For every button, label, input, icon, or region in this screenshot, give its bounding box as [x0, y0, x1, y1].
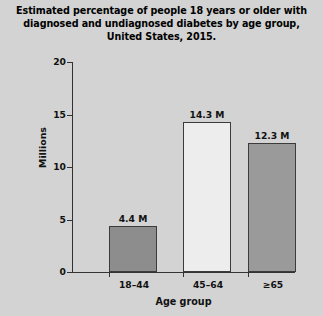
y-tick-15: 15	[0, 115, 66, 116]
x-tick-mark-3	[248, 272, 249, 277]
bar-value-45-64: 14.3 M	[173, 109, 241, 120]
y-tick-10: 10	[0, 167, 66, 168]
x-tick-label-45-64: 45–64	[173, 279, 243, 290]
x-tick-mark-1	[109, 272, 110, 277]
chart-figure: Estimated percentage of people 18 years …	[0, 0, 323, 316]
y-tick-label: 0	[20, 266, 66, 277]
y-tick-20: 20	[0, 62, 66, 63]
y-tick-label: 5	[20, 214, 66, 225]
bar-45-64[interactable]	[183, 122, 231, 272]
bar-value-18-44: 4.4 M	[99, 213, 167, 224]
bar-value-65-plus: 12.3 M	[238, 130, 306, 141]
x-tick-label-18-44: 18–44	[99, 279, 169, 290]
x-tick-label-65-plus: ≥65	[238, 279, 308, 290]
chart-title-line-2: diagnosed and undiagnosed diabetes by ag…	[14, 17, 309, 30]
chart-title-line-1: Estimated percentage of people 18 years …	[14, 4, 309, 17]
y-tick-label: 20	[20, 56, 66, 67]
bar-18-44[interactable]	[109, 226, 157, 272]
y-tick-mark	[67, 272, 72, 273]
bar-65-plus[interactable]	[248, 143, 296, 272]
y-tick-0: 0	[0, 272, 66, 273]
y-axis-label: Millions	[37, 103, 48, 193]
chart-title-line-3: United States, 2015.	[14, 30, 309, 43]
x-tick-mark-2	[183, 272, 184, 277]
plot-area: 4.4 M 14.3 M 12.3 M	[72, 62, 294, 272]
y-tick-5: 5	[0, 220, 66, 221]
x-axis-label: Age group	[72, 296, 295, 307]
chart-title: Estimated percentage of people 18 years …	[14, 4, 309, 44]
